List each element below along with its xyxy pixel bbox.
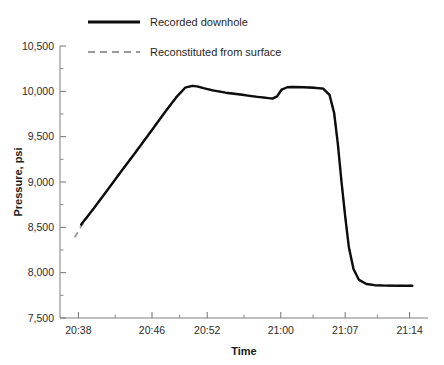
x-axis-title: Time: [231, 345, 256, 357]
y-axis-tick-group: [60, 46, 66, 318]
axis-frame: [60, 46, 428, 318]
x-axis-tick-label: 21:07: [332, 324, 358, 336]
chart-legend: Recorded downhole Reconstituted from sur…: [88, 16, 281, 58]
y-axis-tick-label: 9,000: [28, 176, 54, 188]
x-axis-tick-label: 21:14: [396, 324, 422, 336]
y-axis-tick-label: 9,500: [28, 130, 54, 142]
y-axis-tick-label: 10,500: [22, 40, 54, 52]
y-axis-tick-labels: 10,50010,0009,5009,0008,5008,0007,500: [22, 40, 54, 324]
y-axis-tick-label: 8,000: [28, 266, 54, 278]
x-axis-tick-label: 20:46: [139, 324, 165, 336]
x-axis-tick-labels: 20:3820:4620:5221:0021:0721:14: [65, 324, 423, 336]
x-axis-tick-group: [78, 312, 409, 318]
x-axis-tick-label: 20:38: [65, 324, 91, 336]
y-axis-tick-label: 8,500: [28, 221, 54, 233]
x-axis-tick-label: 21:00: [268, 324, 294, 336]
legend-label-reconstituted-from-surface: Reconstituted from surface: [150, 46, 281, 58]
x-axis-tick-label: 20:52: [194, 324, 220, 336]
legend-label-recorded-downhole: Recorded downhole: [150, 16, 248, 28]
series-line-reconstituted-from-surface: [75, 86, 413, 286]
pressure-time-chart: 10,50010,0009,5009,0008,5008,0007,500 20…: [0, 0, 444, 365]
series-line-recorded-downhole: [81, 86, 412, 286]
y-axis-tick-label: 10,000: [22, 85, 54, 97]
series-group: [75, 86, 413, 286]
y-axis-title: Pressure, psi: [12, 147, 24, 216]
chart-canvas: 10,50010,0009,5009,0008,5008,0007,500 20…: [0, 0, 444, 365]
y-axis-tick-label: 7,500: [28, 312, 54, 324]
